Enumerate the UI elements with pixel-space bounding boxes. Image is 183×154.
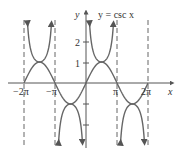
x-axis-label: x	[167, 86, 173, 97]
y-tick-label-2: 2	[75, 37, 80, 48]
x-tick-label-pi: π	[113, 86, 118, 97]
y-tick-label-1: 1	[75, 58, 80, 69]
x-tick-label-2pi: 2π	[141, 86, 151, 97]
y-axis-label: y	[74, 9, 80, 20]
plot-area: y y = csc x x −2π −π π 2π 2 1	[0, 0, 183, 154]
x-tick-label-neg2pi: −2π	[13, 86, 29, 97]
chart-title: y = csc x	[98, 9, 134, 20]
x-tick-label-negpi: −π	[46, 86, 57, 97]
csc-graph: y y = csc x x −2π −π π 2π 2 1	[0, 0, 183, 154]
